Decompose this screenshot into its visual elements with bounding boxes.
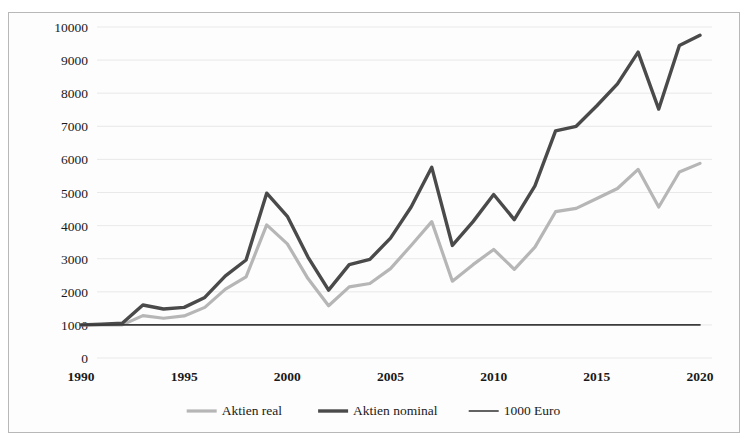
x-tick-label: 2005 xyxy=(377,369,404,384)
y-axis-tick-labels: 0100020003000400050006000700080009000100… xyxy=(54,20,88,366)
line-chart: 0100020003000400050006000700080009000100… xyxy=(0,0,753,444)
y-tick-label: 0 xyxy=(81,351,88,366)
series-line-aktien-nominal xyxy=(81,35,700,325)
x-tick-label: 2000 xyxy=(274,369,301,384)
y-tick-label: 4000 xyxy=(61,219,88,234)
y-tick-label: 3000 xyxy=(61,252,88,267)
y-tick-label: 9000 xyxy=(61,53,88,68)
y-tick-label: 5000 xyxy=(61,186,88,201)
x-tick-label: 2020 xyxy=(687,369,714,384)
x-axis-tick-labels: 1990199520002005201020152020 xyxy=(68,369,714,384)
series-line-aktien-real xyxy=(81,163,700,325)
y-tick-label: 10000 xyxy=(54,20,88,35)
y-tick-label: 8000 xyxy=(61,86,88,101)
gridlines xyxy=(97,27,712,358)
legend-label[interactable]: Aktien real xyxy=(222,403,283,418)
chart-legend: Aktien realAktien nominal1000 Euro xyxy=(187,403,561,418)
chart-container: 0100020003000400050006000700080009000100… xyxy=(0,0,753,444)
y-tick-label: 2000 xyxy=(61,285,88,300)
x-tick-label: 2015 xyxy=(583,369,610,384)
x-tick-label: 2010 xyxy=(480,369,507,384)
data-series xyxy=(81,35,700,325)
y-tick-label: 7000 xyxy=(61,119,88,134)
y-tick-label: 6000 xyxy=(61,152,88,167)
legend-label[interactable]: 1000 Euro xyxy=(504,403,561,418)
x-tick-label: 1990 xyxy=(68,369,95,384)
legend-label[interactable]: Aktien nominal xyxy=(353,403,438,418)
x-tick-label: 1995 xyxy=(171,369,198,384)
